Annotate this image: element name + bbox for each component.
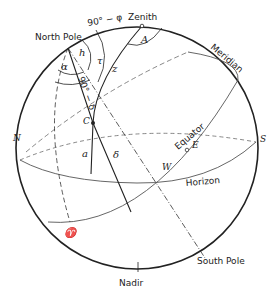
equator-back-dashed bbox=[26, 52, 188, 152]
declination-label: δ bbox=[113, 149, 119, 160]
east-point bbox=[185, 148, 189, 152]
star-point-c bbox=[91, 121, 95, 125]
west-label: W bbox=[162, 162, 172, 172]
equator-line bbox=[48, 80, 238, 222]
horizon-label: Horizon bbox=[185, 175, 220, 188]
celestial-sphere-outline bbox=[16, 27, 258, 269]
east-label: E bbox=[191, 140, 199, 150]
altitude-label: a bbox=[82, 148, 88, 159]
celestial-sphere-diagram: Zenith Nadir North Pole South Pole Merid… bbox=[0, 0, 275, 294]
sidereal-time-label: τ bbox=[97, 55, 103, 66]
south-pole-label: South Pole bbox=[197, 256, 245, 266]
colatitude-label: 90° − φ bbox=[87, 12, 123, 28]
star-label: C bbox=[83, 116, 90, 126]
right-ascension-label: α bbox=[61, 61, 68, 72]
nadir-label: Nadir bbox=[119, 278, 143, 288]
horizon-line bbox=[20, 142, 256, 183]
south-label: S bbox=[260, 134, 266, 144]
polar-distance-label: 90° − δ bbox=[76, 75, 97, 112]
north-label: N bbox=[12, 133, 22, 143]
equator-label: Equator bbox=[173, 121, 207, 152]
zenith-point bbox=[140, 24, 144, 28]
azimuth-label: A bbox=[140, 34, 148, 45]
zenith-label: Zenith bbox=[128, 12, 157, 22]
vernal-equinox-label: ♈ bbox=[64, 226, 79, 239]
hour-angle-label: h bbox=[79, 47, 85, 58]
zenith-distance-label: z bbox=[111, 63, 118, 74]
star-hour-circle bbox=[68, 48, 131, 212]
polar-axis bbox=[68, 48, 205, 258]
north-pole-label: North Pole bbox=[35, 32, 82, 42]
